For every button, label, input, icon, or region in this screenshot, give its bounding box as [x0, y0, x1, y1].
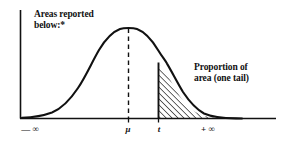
proportion-of-area-label: Proportion ofarea (one tail)	[194, 62, 249, 83]
areas-reported-label: Areas reportedbelow:*	[34, 9, 94, 30]
statistics-distribution-figure: Areas reportedbelow:* Proportion ofarea …	[0, 0, 288, 144]
proportion-of-area-label-line1: Proportion of	[194, 62, 248, 72]
x-tick-label-negative-infinity: — ∞	[10, 124, 50, 134]
proportion-of-area-label-line2: area (one tail)	[194, 73, 249, 83]
areas-reported-label-line1: Areas reported	[34, 9, 94, 19]
x-tick-label-t: t	[141, 124, 177, 134]
x-tick-label-positive-infinity: + ∞	[186, 124, 230, 134]
areas-reported-label-line2: below:*	[34, 20, 65, 30]
